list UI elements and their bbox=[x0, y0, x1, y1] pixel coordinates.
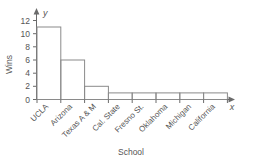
bar-texas-am[interactable] bbox=[85, 86, 109, 99]
y-tick-label: 4 bbox=[25, 68, 30, 78]
x-axis-category-labels: UCLA Arizona Texas A & M Cal. State Fres… bbox=[29, 102, 217, 140]
y-tick-label: 0 bbox=[25, 95, 30, 105]
bar-fresno-st[interactable] bbox=[132, 93, 156, 100]
x-axis-title: School bbox=[118, 147, 144, 157]
x-axis-variable-label: x bbox=[229, 102, 235, 112]
bar-ucla[interactable] bbox=[37, 27, 61, 100]
x-axis-ticks bbox=[37, 100, 227, 104]
bars-group bbox=[37, 27, 227, 100]
chart-canvas: 0 2 4 6 8 10 12 y x Wins School bbox=[0, 0, 259, 163]
category-label-ucla: UCLA bbox=[29, 102, 51, 124]
y-axis-arrow-icon bbox=[34, 8, 40, 15]
category-label-california: California bbox=[187, 102, 218, 133]
bar-chart-figure: 0 2 4 6 8 10 12 y x Wins School bbox=[0, 0, 259, 163]
y-axis-variable-label: y bbox=[42, 8, 48, 18]
y-axis-ticks bbox=[33, 21, 37, 100]
y-tick-label: 6 bbox=[25, 55, 30, 65]
y-axis-title: Wins bbox=[4, 55, 14, 74]
y-tick-label: 10 bbox=[21, 29, 31, 39]
bar-california[interactable] bbox=[204, 93, 228, 100]
bar-cal-state[interactable] bbox=[108, 93, 132, 100]
y-tick-label: 2 bbox=[25, 81, 30, 91]
y-tick-label: 8 bbox=[25, 42, 30, 52]
bar-arizona[interactable] bbox=[61, 60, 85, 100]
bar-michigan[interactable] bbox=[180, 93, 204, 100]
y-tick-label: 12 bbox=[21, 16, 31, 26]
bar-oklahoma[interactable] bbox=[156, 93, 180, 100]
y-axis-tick-labels: 0 2 4 6 8 10 12 bbox=[21, 16, 31, 105]
